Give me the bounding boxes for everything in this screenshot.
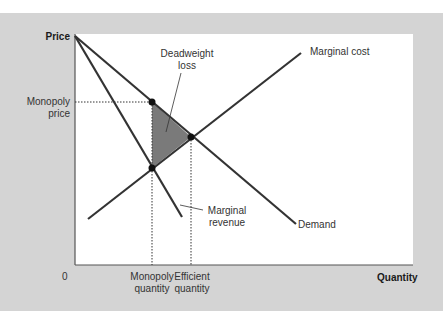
monopoly-diagram	[0, 0, 445, 315]
y-axis-label: Price	[20, 31, 70, 43]
monopoly-point	[149, 99, 156, 106]
deadweight-loss-label: Deadweight loss	[155, 48, 219, 72]
marginal-cost-label: Marginal cost	[310, 46, 369, 58]
efficient-point	[188, 134, 195, 141]
x-axis-label: Quantity	[377, 272, 418, 284]
monopoly-price-label: Monopoly price	[8, 96, 70, 120]
efficient-quantity-label: Efficient quantity	[166, 271, 218, 295]
origin-label: 0	[62, 271, 68, 283]
marginal-revenue-label: Marginal revenue	[200, 205, 254, 229]
demand-label: Demand	[298, 219, 336, 231]
mr-mc-intersection-point	[149, 165, 156, 172]
plot-area	[75, 34, 413, 265]
